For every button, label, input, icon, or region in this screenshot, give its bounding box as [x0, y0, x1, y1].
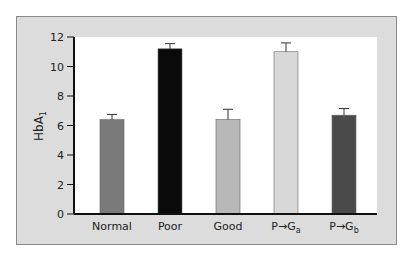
x-category-label: Normal	[92, 220, 132, 233]
bar-chart: 024681012 NormalPoorGoodP→GaP→Gb HbA1	[0, 0, 409, 262]
y-tick-label: 10	[50, 61, 64, 74]
x-category-label: Poor	[158, 220, 183, 233]
y-tick-label: 8	[57, 90, 64, 103]
y-tick-label: 12	[50, 31, 64, 44]
bar	[332, 115, 356, 214]
y-tick-label: 2	[57, 179, 64, 192]
y-tick-label: 6	[57, 120, 64, 133]
y-axis: 024681012	[50, 31, 74, 221]
x-category-label: P→Ga	[271, 220, 300, 235]
x-axis: NormalPoorGoodP→GaP→Gb	[74, 214, 377, 235]
y-tick-label: 0	[57, 208, 64, 221]
y-tick-label: 4	[57, 149, 64, 162]
bar	[216, 120, 240, 214]
bar	[100, 120, 124, 214]
y-axis-title: HbA1	[32, 111, 48, 141]
bar	[158, 49, 182, 214]
x-category-label: P→Gb	[329, 220, 358, 235]
bar	[274, 52, 298, 214]
x-category-label: Good	[214, 220, 243, 233]
